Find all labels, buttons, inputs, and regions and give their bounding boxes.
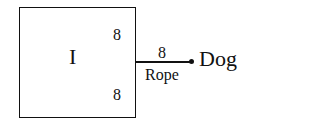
box-label: I [69, 46, 76, 68]
box-bottom-value: 8 [113, 87, 121, 103]
rope-value: 8 [158, 45, 166, 61]
rope-end-dot [189, 59, 194, 64]
rope-label: Rope [145, 67, 179, 83]
rope-line [136, 61, 191, 63]
dog-label: Dog [199, 48, 237, 70]
box-top-value: 8 [113, 27, 121, 43]
